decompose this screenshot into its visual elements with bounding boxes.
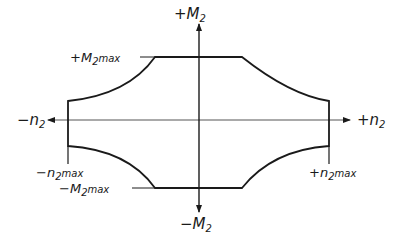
label-pos-M2max: +M2max: [70, 50, 120, 67]
label-pos-n2: +n2: [357, 111, 385, 130]
label-neg-M2: −M2: [180, 215, 212, 234]
label-neg-M2max: −M2max: [59, 181, 109, 198]
interaction-diagram: +M2 −M2 +n2 −n2 +M2max −M2max −n2max +n2…: [0, 0, 404, 244]
label-pos-n2max: +n2max: [309, 165, 356, 182]
label-neg-n2max: −n2max: [36, 165, 83, 182]
label-neg-n2: −n2: [17, 111, 45, 130]
label-pos-M2: +M2: [174, 5, 206, 24]
